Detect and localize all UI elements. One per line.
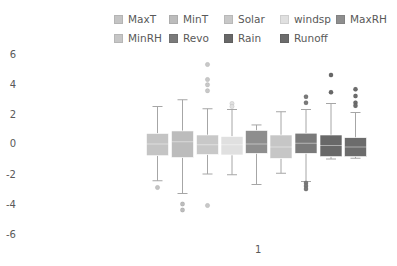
plot-area — [0, 0, 397, 266]
outlier-point-mint — [180, 208, 184, 212]
box-mint — [172, 131, 194, 158]
box-maxt — [147, 134, 169, 156]
outlier-point-solar — [205, 89, 209, 93]
box-windsp — [221, 137, 243, 155]
outlier-point-mint — [180, 202, 184, 206]
outlier-point-windsp — [230, 104, 234, 108]
outlier-point-rain — [329, 90, 333, 94]
outlier-point-solar — [205, 77, 209, 81]
outlier-point-solar — [205, 203, 209, 207]
outlier-point-maxt — [155, 185, 159, 189]
outlier-point-runoff — [353, 94, 357, 98]
outlier-point-rain — [329, 73, 333, 77]
box-maxrh — [246, 131, 268, 154]
outlier-point-runoff — [353, 104, 357, 108]
outlier-point-revo — [304, 95, 308, 99]
box-plot-chart: MaxT MinT Solar windsp MaxRH MinRH Revo — [0, 0, 397, 266]
outlier-point-solar — [205, 83, 209, 87]
outlier-point-revo — [304, 187, 308, 191]
outlier-point-runoff — [353, 87, 357, 91]
outlier-point-revo — [304, 101, 308, 105]
outlier-point-solar — [205, 62, 209, 66]
